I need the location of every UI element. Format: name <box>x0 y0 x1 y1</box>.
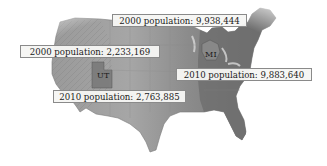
us-population-map: UT MI 2000 population: 9,938,444 2000 po… <box>0 0 327 166</box>
callout-mi-2000: 2000 population: 9,938,444 <box>112 14 247 27</box>
state-label-mi: MI <box>205 50 217 59</box>
callout-ut-2010: 2010 population: 2,763,885 <box>53 90 186 103</box>
callout-ut-2000: 2000 population: 2,233,169 <box>20 45 160 58</box>
state-label-ut: UT <box>97 71 109 80</box>
callout-mi-2010: 2010 population: 9,883,640 <box>176 68 312 81</box>
